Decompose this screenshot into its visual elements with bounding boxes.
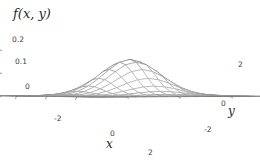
y-tick-label: 2 [238,60,243,69]
surface-mesh-canvas [0,0,260,168]
x-tick-label: 2 [148,148,153,157]
z-axis-label: f(x, y) [13,6,51,21]
z-tick-label: 0 [25,82,30,91]
z-tick-label: 0.2 [12,35,24,44]
y-tick-label: -2 [204,125,211,134]
surface-plot-figure: f(x, y) x y 0.20.10-20220-2 [0,0,260,168]
x-axis-label: x [106,137,113,151]
z-tick-label: 0.1 [15,57,27,66]
x-tick-label: 0 [110,129,115,138]
y-tick-label: 0 [221,99,226,108]
x-tick-label: -2 [54,114,61,123]
y-axis-label: y [228,104,235,118]
